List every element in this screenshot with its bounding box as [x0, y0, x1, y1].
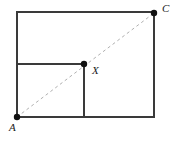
geometry-figure: A X C — [0, 0, 178, 142]
point-dot-x — [81, 61, 87, 67]
point-dot-c — [151, 10, 157, 16]
figure-canvas: A X C — [0, 0, 178, 142]
point-label-a: A — [8, 121, 16, 133]
point-label-c: C — [162, 2, 170, 14]
point-label-x: X — [91, 64, 100, 76]
point-dot-a — [14, 114, 20, 120]
